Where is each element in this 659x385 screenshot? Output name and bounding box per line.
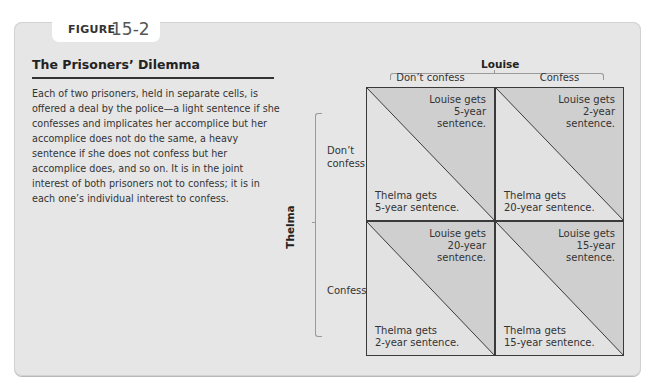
cell-dont-dont: Louise gets5-yearsentence. Thelma gets5-… bbox=[366, 87, 495, 221]
cell-dont-confess: Louise gets2-yearsentence. Thelma gets20… bbox=[495, 87, 624, 221]
figure-number: 15-2 bbox=[111, 19, 150, 39]
thelma-payoff: Thelma gets2-year sentence. bbox=[375, 325, 459, 349]
louise-payoff: Louise gets5-yearsentence. bbox=[429, 94, 486, 130]
figure-label: FIGURE bbox=[68, 23, 115, 36]
row-bracket-tick bbox=[312, 222, 316, 223]
row-bracket bbox=[315, 113, 322, 337]
column-header-confess: Confess bbox=[495, 72, 624, 83]
row-header-confess: Confess bbox=[327, 284, 367, 297]
thelma-payoff: Thelma gets15-year sentence. bbox=[504, 325, 595, 349]
cell-confess-dont: Louise gets20-yearsentence. Thelma gets2… bbox=[366, 221, 495, 356]
louise-payoff: Louise gets20-yearsentence. bbox=[429, 228, 486, 264]
row-header-dont-confess: Don’t confess bbox=[327, 144, 365, 170]
figure-description: Each of two prisoners, held in separate … bbox=[32, 86, 282, 206]
column-player-label: Louise bbox=[481, 58, 519, 70]
louise-payoff: Louise gets2-yearsentence. bbox=[558, 94, 615, 130]
figure-title: The Prisoners’ Dilemma bbox=[32, 57, 200, 72]
row-player-label: Thelma bbox=[284, 205, 296, 248]
thelma-payoff: Thelma gets5-year sentence. bbox=[375, 190, 459, 214]
cell-confess-confess: Louise gets15-yearsentence. Thelma gets1… bbox=[495, 221, 624, 356]
payoff-matrix: Louise gets5-yearsentence. Thelma gets5-… bbox=[366, 87, 624, 356]
column-header-dont-confess: Don’t confess bbox=[366, 72, 495, 83]
thelma-payoff: Thelma gets20-year sentence. bbox=[504, 190, 595, 214]
title-divider bbox=[32, 77, 274, 79]
louise-payoff: Louise gets15-yearsentence. bbox=[558, 228, 615, 264]
